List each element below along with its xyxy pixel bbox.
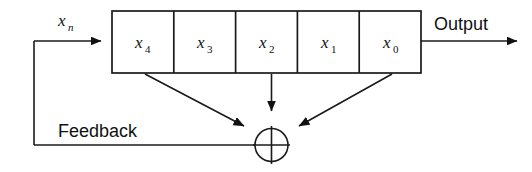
diagram-canvas: x 4 x 3 x 2 x 1 x 0 x n — [0, 0, 532, 172]
cell-label-x3-subscript: 3 — [207, 43, 213, 55]
tap-line-x4 — [145, 74, 244, 126]
tap-lines — [145, 74, 392, 126]
cell-label-x4-subscript: 4 — [145, 43, 151, 55]
output-label: Output — [434, 14, 488, 34]
xor-gate — [253, 126, 290, 164]
input-label-base: x — [57, 11, 66, 30]
tap-line-x0 — [299, 74, 392, 126]
cell-label-x1-base: x — [320, 33, 329, 52]
cell-label-x4-base: x — [134, 33, 143, 52]
feedback-label: Feedback — [58, 121, 138, 141]
cell-label-x0-base: x — [382, 33, 391, 52]
input-label: x n — [57, 11, 74, 33]
cell-label-x3-base: x — [196, 33, 205, 52]
cell-label-x2-subscript: 2 — [269, 43, 275, 55]
input-label-subscript: n — [68, 21, 74, 33]
cell-label-x0-subscript: 0 — [393, 43, 399, 55]
lfsr-diagram: x 4 x 3 x 2 x 1 x 0 x n — [0, 0, 532, 172]
cell-label-x2-base: x — [258, 33, 267, 52]
cell-label-x1-subscript: 1 — [331, 43, 337, 55]
